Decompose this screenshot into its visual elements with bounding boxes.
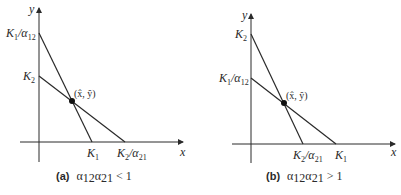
isocline-y xyxy=(39,76,125,142)
equilibrium-label: (x̂, ŷ) xyxy=(74,88,96,100)
diagram-canvas: y x K1/α12 K2 K1 K2/α21 (x̂, ŷ) (a) α12α… xyxy=(0,0,401,195)
y-intercept-label-top: K2 xyxy=(234,27,247,43)
y-axis-label: y xyxy=(241,8,248,22)
y-intercept-label-bottom: K1/α12 xyxy=(218,71,249,87)
isocline-y xyxy=(251,34,303,144)
x-intercept-label-right: K2/α21 xyxy=(116,146,147,162)
x-intercept-label-left: K1 xyxy=(86,146,99,162)
x-axis-label: x xyxy=(179,145,186,159)
caption-a: (a) α12α21 < 1 xyxy=(56,166,132,185)
panel-b: y x K2 K1/α12 K2/α21 K1 (x̂, ŷ) (b) α12α… xyxy=(218,8,397,185)
y-axis-label: y xyxy=(28,2,35,16)
y-intercept-label-top: K1/α12 xyxy=(5,26,36,42)
x-axis-label: x xyxy=(390,145,397,159)
y-intercept-label-bottom: K2 xyxy=(22,69,35,85)
x-intercept-label-right: K1 xyxy=(334,148,347,164)
caption-b: (b) α12α21 > 1 xyxy=(266,166,342,185)
isocline-x xyxy=(251,78,336,144)
x-intercept-label-left: K2/α21 xyxy=(292,148,323,164)
panel-a: y x K1/α12 K2 K1 K2/α21 (x̂, ŷ) (a) α12α… xyxy=(5,2,186,185)
equilibrium-label: (x̂, ŷ) xyxy=(286,90,308,102)
